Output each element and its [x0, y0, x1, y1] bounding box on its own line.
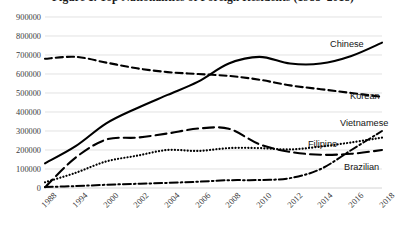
y-tick-label: 600000	[16, 70, 41, 79]
data-series-group	[45, 43, 382, 188]
line-chart: 900000 800000 700000 600000 500000 40000…	[0, 0, 406, 233]
x-tick-label: 2014	[315, 190, 335, 210]
y-tick-label: 0	[37, 184, 41, 193]
x-tick-label: 2010	[254, 190, 273, 209]
x-axis-labels: 1988 1994 2000 2002 2004 2006 2008 2010 …	[39, 190, 396, 210]
x-tick-label: 1994	[70, 190, 90, 210]
y-tick-label: 300000	[16, 127, 41, 136]
x-tick-label: 1988	[39, 190, 58, 209]
series-label-korean: Korean	[350, 91, 380, 101]
series-line-brazilian	[45, 127, 382, 187]
y-tick-label: 200000	[16, 146, 41, 155]
series-label-brazilian: Brazilian	[344, 162, 379, 172]
x-tick-label: 2004	[162, 190, 182, 210]
x-tick-label: 2012	[285, 190, 304, 209]
y-tick-label: 800000	[16, 32, 41, 41]
y-tick-label: 400000	[16, 108, 41, 117]
figure-container: Figure 1. Top Nationalities of Foreign R…	[0, 0, 406, 233]
y-tick-label: 100000	[16, 165, 41, 174]
x-tick-label: 2016	[346, 190, 366, 210]
y-axis-labels: 900000 800000 700000 600000 500000 40000…	[16, 13, 41, 193]
y-tick-label: 500000	[16, 89, 41, 98]
x-tick-label: 2018	[377, 190, 396, 209]
y-tick-label: 700000	[16, 51, 41, 60]
series-line-korean	[45, 57, 382, 97]
series-label-vietnamese: Vietnamese	[340, 118, 388, 128]
y-tick-label: 900000	[16, 13, 41, 22]
x-tick-label: 2006	[193, 190, 213, 210]
x-tick-label: 2008	[223, 190, 242, 209]
x-tick-label: 2000	[101, 190, 120, 209]
x-tick-label: 2002	[131, 190, 150, 209]
series-label-filipino: Filipino	[308, 139, 337, 149]
series-label-chinese: Chinese	[330, 39, 364, 49]
